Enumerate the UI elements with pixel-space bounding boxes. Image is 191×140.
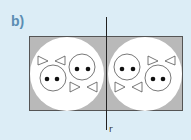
- reflection-diagram: [0, 0, 191, 140]
- right-white-circle: [108, 37, 182, 111]
- mirror-line-label: r: [109, 124, 113, 134]
